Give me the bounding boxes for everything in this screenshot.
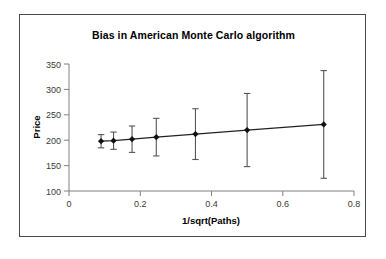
y-tick-label-100: 100 — [46, 187, 61, 197]
data-series-layer — [98, 71, 327, 179]
y-tick-label-200: 200 — [46, 136, 61, 146]
data-point-6 — [244, 93, 250, 166]
x-axis-ticks — [69, 191, 354, 196]
y-tick-label-150: 150 — [46, 161, 61, 171]
data-point-7 — [321, 71, 327, 179]
diamond-marker-icon — [110, 138, 116, 144]
chart-plot-area: 350 300 250 200 150 100 0 0.2 0.4 0.6 0.… — [20, 15, 367, 238]
data-point-3 — [129, 126, 135, 152]
y-axis-title: Price — [31, 115, 42, 138]
x-tick-label-0.4: 0.4 — [205, 199, 218, 209]
y-tick-label-350: 350 — [46, 60, 61, 70]
diamond-marker-icon — [321, 121, 327, 127]
y-axis-tick-labels: 350 300 250 200 150 100 — [46, 60, 61, 197]
data-point-5 — [192, 109, 198, 160]
data-point-1 — [98, 135, 104, 148]
diamond-marker-icon — [98, 138, 104, 144]
data-point-2 — [110, 132, 116, 149]
x-tick-label-0: 0 — [66, 199, 71, 209]
diamond-marker-icon — [192, 131, 198, 137]
data-point-4 — [153, 118, 159, 156]
x-tick-label-0.6: 0.6 — [277, 199, 290, 209]
x-tick-label-0.8: 0.8 — [348, 199, 361, 209]
x-tick-label-0.2: 0.2 — [134, 199, 147, 209]
y-tick-label-300: 300 — [46, 85, 61, 95]
x-axis-title: 1/sqrt(Paths) — [182, 215, 240, 226]
diamond-marker-icon — [244, 127, 250, 133]
chart-frame: Bias in American Monte Carlo algorithm 3… — [19, 14, 366, 237]
x-axis-tick-labels: 0 0.2 0.4 0.6 0.8 — [66, 199, 360, 209]
diamond-marker-icon — [129, 136, 135, 142]
y-axis-ticks — [64, 64, 69, 191]
diamond-marker-icon — [153, 134, 159, 140]
y-tick-label-250: 250 — [46, 110, 61, 120]
